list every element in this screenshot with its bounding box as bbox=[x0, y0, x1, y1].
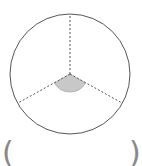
shaded-angle-sector bbox=[54, 74, 85, 92]
circle-diagram: ( ) bbox=[0, 0, 142, 166]
left-parenthesis: ( bbox=[2, 135, 14, 166]
right-parenthesis: ) bbox=[129, 135, 141, 166]
